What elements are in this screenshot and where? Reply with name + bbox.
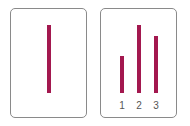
bar-label-1: 1 — [117, 101, 127, 111]
bar-label-3: 3 — [151, 101, 161, 111]
bar-2 — [137, 25, 141, 93]
single-bar-card — [10, 8, 87, 118]
bar-3 — [154, 36, 158, 93]
three-bar-card: 1 2 3 — [100, 8, 177, 118]
bar-1 — [120, 56, 124, 93]
single-bar — [47, 25, 51, 93]
bar-label-2: 2 — [134, 101, 144, 111]
